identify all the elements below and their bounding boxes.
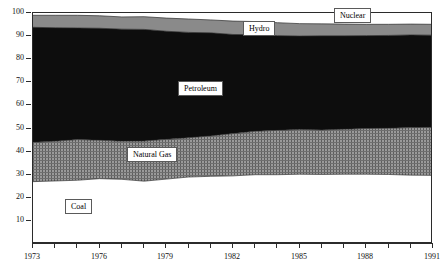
x-axis-tick-1980 (188, 244, 189, 248)
area-coal (33, 174, 432, 243)
x-axis-tick-1982 (232, 244, 233, 248)
series-label-hydro: Hydro (243, 21, 275, 36)
x-axis-tick-1987 (343, 244, 344, 248)
y-axis-tick-label-80: 80 (2, 54, 24, 62)
x-axis-tick-1988 (365, 244, 366, 248)
x-axis-tick-1985 (299, 244, 300, 248)
y-axis-tick-label-40: 40 (2, 147, 24, 155)
y-axis-tick-100 (26, 12, 31, 13)
x-axis-tick-1973 (32, 244, 33, 248)
y-axis-tick-10 (26, 220, 31, 221)
x-axis-tick-1991 (432, 244, 433, 248)
series-layer (33, 13, 432, 243)
y-axis-tick-label-100: 100 (2, 8, 24, 16)
x-axis-tick-1983 (254, 244, 255, 248)
y-axis-tick-label-70: 70 (2, 77, 24, 85)
y-axis-tick-90 (26, 35, 31, 36)
x-axis-tick-1979 (165, 244, 166, 248)
y-axis-tick-label-30: 30 (2, 170, 24, 178)
y-axis-tick-label-50: 50 (2, 124, 24, 132)
y-axis-tick-label-60: 60 (2, 100, 24, 108)
y-axis-labels: 102030405060708090100 (0, 0, 24, 267)
x-axis-tick-label-1973: 1973 (17, 252, 47, 261)
x-axis-tick-1977 (121, 244, 122, 248)
x-axis-tick-1978 (143, 244, 144, 248)
x-axis-tick-1974 (54, 244, 55, 248)
x-axis-tick-label-1985: 1985 (284, 252, 314, 261)
plot-svg (33, 13, 432, 243)
series-label-natural-gas: Natural Gas (127, 147, 177, 162)
x-axis-tick-1984 (276, 244, 277, 248)
area-petroleum (33, 27, 432, 142)
series-label-coal: Coal (65, 199, 92, 214)
y-axis-line (32, 12, 33, 244)
x-axis-tick-label-1982: 1982 (217, 252, 247, 261)
y-axis-tick-30 (26, 174, 31, 175)
x-axis-tick-1981 (210, 244, 211, 248)
x-axis-tick-1976 (99, 244, 100, 248)
stacked-area-chart: 102030405060708090100 197319761979198219… (0, 0, 446, 267)
x-axis-tick-1989 (388, 244, 389, 248)
y-axis-tick-40 (26, 151, 31, 152)
x-axis-tick-1986 (321, 244, 322, 248)
x-axis-tick-label-1988: 1988 (350, 252, 380, 261)
x-axis-tick-label-1991: 1991 (417, 252, 446, 261)
x-axis-tick-1990 (410, 244, 411, 248)
series-label-petroleum: Petroleum (178, 81, 223, 96)
y-axis-tick-50 (26, 128, 31, 129)
x-axis-tick-label-1976: 1976 (84, 252, 114, 261)
y-axis-tick-label-10: 10 (2, 216, 24, 224)
x-axis-tick-label-1979: 1979 (150, 252, 180, 261)
series-label-nuclear: Nuclear (334, 8, 371, 23)
x-axis-tick-1975 (76, 244, 77, 248)
y-axis-tick-label-20: 20 (2, 193, 24, 201)
y-axis-tick-70 (26, 81, 31, 82)
y-axis-tick-80 (26, 58, 31, 59)
y-axis-tick-label-90: 90 (2, 31, 24, 39)
y-axis-tick-20 (26, 197, 31, 198)
y-axis-tick-60 (26, 104, 31, 105)
